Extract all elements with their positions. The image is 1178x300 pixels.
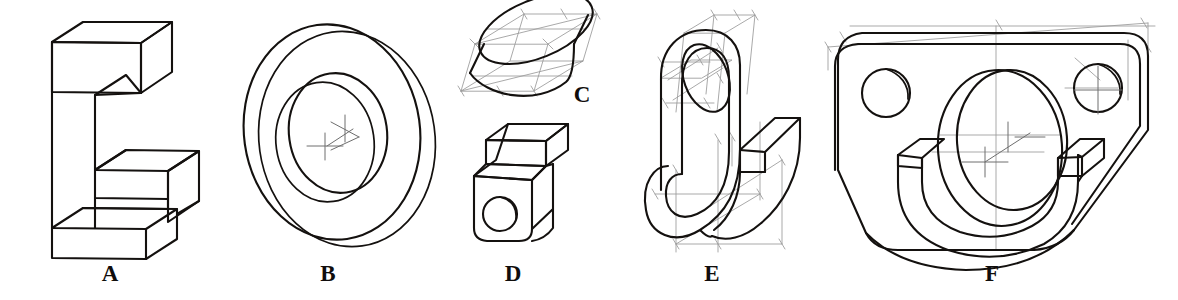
figure-label-e: E [698,262,726,285]
figure-b-cylindrical-ring-washer [230,13,449,258]
figure-f-bearing-mount-bracket [825,18,1155,270]
figure-label-d: D [499,262,527,285]
figure-label-b: B [314,262,342,285]
figure-label-c: C [568,83,596,106]
figure-f-construction-lines [825,18,1155,250]
figure-d-stepped-block-with-hole [474,124,568,241]
figure-label-f: F [978,262,1006,285]
figure-a-c-shaped-bracket-block [52,22,199,259]
figure-b-center-marks [307,115,359,160]
drawing-plate: A B C D E F [0,0,1178,300]
figure-label-a: A [96,262,124,285]
figure-e-j-hook-bracket [645,10,800,252]
drawing-canvas [0,0,1178,300]
figure-f-center-marks [962,122,1045,177]
